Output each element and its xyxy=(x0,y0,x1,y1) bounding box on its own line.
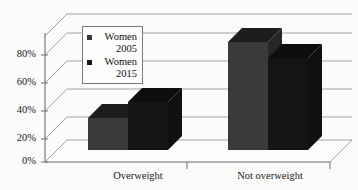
y-axis-label-60: 60% xyxy=(6,76,36,87)
depth-line-top xyxy=(45,14,67,36)
x-axis-label-not-overweight: Not overweight xyxy=(210,170,330,181)
x-axis-label-overweight: Overweight xyxy=(88,170,188,181)
bar-side-face xyxy=(308,44,322,150)
legend-item-women-2005: Women2005 xyxy=(87,31,137,54)
depth-line-60 xyxy=(45,61,67,83)
y-axis-label-40: 40% xyxy=(6,104,36,115)
legend-swatch-2015-icon xyxy=(87,60,92,65)
y-axis-label-20: 20% xyxy=(6,132,36,143)
depth-line-20 xyxy=(45,117,67,139)
bar-chart: Women2005 Women2015 80% 60% 40% 20% 0% O… xyxy=(0,0,358,190)
legend-label-2015: Women2015 xyxy=(96,56,137,79)
bar-front-face xyxy=(88,118,128,150)
depth-line-40 xyxy=(45,89,67,111)
bar-front-face xyxy=(228,42,268,150)
chart-legend: Women2005 Women2015 xyxy=(82,26,143,84)
y-axis-label-0: 0% xyxy=(6,155,36,166)
legend-item-women-2015: Women2015 xyxy=(87,56,137,79)
legend-label-2005: Women2005 xyxy=(96,31,137,54)
bar-front-face xyxy=(128,102,168,150)
depth-line-80 xyxy=(45,33,67,55)
bar-front-face xyxy=(268,58,308,150)
legend-swatch-2005-icon xyxy=(87,35,92,40)
chart-canvas xyxy=(0,0,358,190)
bar-not-overweight-women-2015 xyxy=(268,44,322,150)
y-axis-label-80: 80% xyxy=(6,48,36,59)
bar-overweight-women-2015 xyxy=(128,88,182,150)
